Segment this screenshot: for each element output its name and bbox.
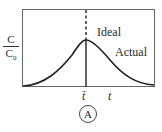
y-label-denominator: C0 [3, 47, 19, 62]
tick-t-bar: t̄ [82, 90, 85, 102]
x-axis-label: t [108, 90, 111, 102]
y-axis-label: C C0 [3, 34, 19, 62]
ideal-label: Ideal [97, 26, 121, 38]
panel-label-badge: A [79, 105, 97, 123]
y-label-numerator: C [3, 34, 19, 47]
actual-label: Actual [115, 46, 147, 58]
